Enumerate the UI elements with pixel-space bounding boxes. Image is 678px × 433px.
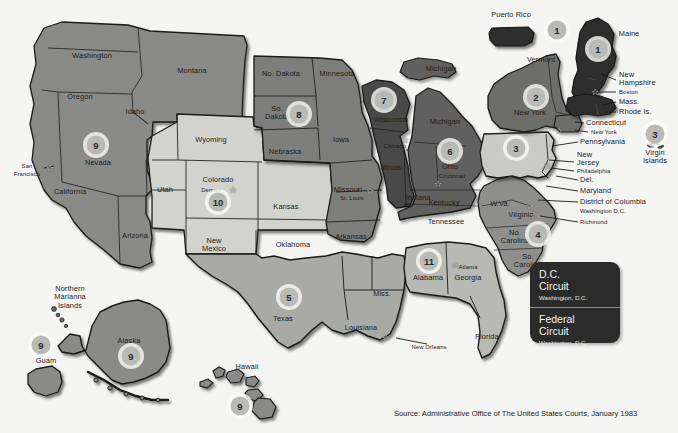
badge-texas: 5: [280, 288, 299, 307]
circuit-1-region: [566, 18, 616, 116]
badge-maine: 1: [589, 40, 608, 59]
badge-nevada: 9: [87, 136, 106, 155]
badge-wisconsin: 7: [375, 91, 394, 110]
badge-ohio: 6: [441, 142, 460, 161]
badge-pennsylvania: 3: [507, 139, 526, 158]
badge-hawaii: 9: [231, 397, 250, 416]
legend-federal-circuit: Federal Circuit Washington, D.C.: [530, 307, 620, 352]
badge-new-york: 2: [527, 88, 546, 107]
legend-federal-circuit-line2: Circuit: [539, 326, 620, 338]
badge-alaska: 9: [122, 347, 141, 366]
guam-shape: [28, 366, 62, 396]
source-note: Source: Administrative Office of The Uni…: [394, 409, 637, 418]
badge-guam: 9: [32, 336, 51, 355]
legend-federal-circuit-line1: Federal: [539, 314, 620, 326]
northern-mariana-islands-shape: [52, 307, 68, 328]
legend-federal-circuit-city: Washington, D.C.: [539, 339, 620, 346]
map-root: WashingtonMontanaOregonIdahoNevadaCalifo…: [0, 0, 678, 433]
badge-virgin-islands: 3: [646, 125, 665, 144]
legend-dc-circuit-line2: Circuit: [539, 281, 620, 293]
badge-fourth-circuit: 4: [529, 225, 548, 244]
badge-colorado: 10: [209, 193, 228, 212]
badge-puerto-rico: 1: [548, 21, 567, 40]
legend-dc-circuit: D.C. Circuit Washington, D.C.: [530, 262, 620, 307]
legend-dc-circuit-line1: D.C.: [539, 269, 620, 281]
puerto-rico-shape: [489, 27, 534, 46]
legend-dc-circuit-city: Washington, D.C.: [539, 294, 620, 301]
badge-alabama: 11: [420, 252, 439, 271]
virgin-islands-shape: [648, 143, 663, 149]
circuit-legend-box: D.C. Circuit Washington, D.C. Federal Ci…: [530, 262, 620, 343]
us-circuit-map-graphic: [0, 0, 678, 433]
alaska-shape: [58, 300, 170, 402]
badge-south-dakota: 8: [290, 105, 309, 124]
